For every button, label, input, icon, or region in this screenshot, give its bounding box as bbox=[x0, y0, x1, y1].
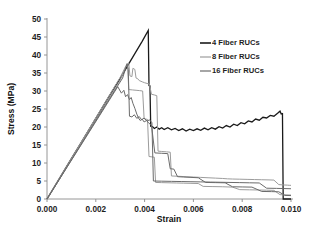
x-tick-label: 0.006 bbox=[183, 205, 204, 214]
stress-strain-chart-figure: 05101520253035404550 Stress (MPa) 0.0000… bbox=[0, 0, 315, 236]
legend-label: 8 Fiber RUCs bbox=[212, 52, 260, 61]
series-line bbox=[47, 63, 291, 199]
x-axis-title: Strain bbox=[157, 214, 181, 224]
x-tick-label: 0.004 bbox=[134, 205, 155, 214]
y-axis-title: Stress (MPa) bbox=[6, 83, 16, 135]
y-tick-label: 50 bbox=[32, 15, 42, 24]
x-tick-label: 0.002 bbox=[86, 205, 107, 214]
y-tick-label: 15 bbox=[32, 141, 42, 150]
y-tick-label: 35 bbox=[32, 69, 42, 78]
y-tick-label: 5 bbox=[36, 177, 41, 186]
x-tick-label: 0.000 bbox=[37, 205, 58, 214]
series-line bbox=[47, 64, 291, 199]
legend-label: 4 Fiber RUCs bbox=[212, 38, 260, 47]
y-tick-label: 40 bbox=[32, 51, 42, 60]
chart-canvas: 05101520253035404550 Stress (MPa) 0.0000… bbox=[0, 0, 315, 236]
y-tick-label: 25 bbox=[32, 105, 42, 114]
series-line bbox=[47, 64, 291, 199]
y-tick-labels: 05101520253035404550 bbox=[32, 15, 42, 204]
y-axis-group: 05101520253035404550 Stress (MPa) bbox=[6, 15, 47, 204]
legend-label: 16 Fiber RUCs bbox=[212, 66, 264, 75]
y-tick-label: 30 bbox=[32, 87, 42, 96]
x-tick-labels: 0.0000.0020.0040.0060.0080.010 bbox=[37, 205, 302, 214]
y-tick-label: 20 bbox=[32, 123, 42, 132]
y-tick-label: 45 bbox=[32, 33, 42, 42]
x-tick-label: 0.010 bbox=[281, 205, 302, 214]
series-line bbox=[47, 87, 291, 199]
x-axis-group: 0.0000.0020.0040.0060.0080.010 Strain bbox=[37, 199, 302, 224]
x-tick-label: 0.008 bbox=[232, 205, 253, 214]
y-tick-label: 0 bbox=[36, 195, 41, 204]
y-tick-label: 10 bbox=[32, 159, 42, 168]
chart-legend: 4 Fiber RUCs8 Fiber RUCs16 Fiber RUCs bbox=[200, 38, 264, 75]
